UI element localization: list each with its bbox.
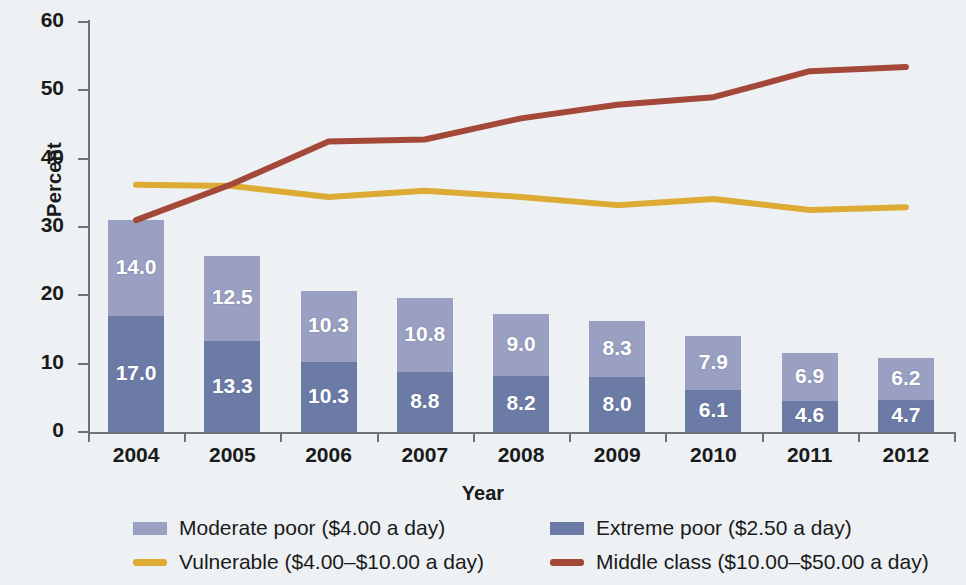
bar-value-label: 10.3 <box>301 313 357 337</box>
bar-segment-moderate-poor[interactable]: 12.5 <box>204 256 260 341</box>
bar-2004[interactable]: 17.014.0 <box>108 220 164 432</box>
x-tick <box>858 432 860 442</box>
legend-item-label: Vulnerable ($4.00–$10.00 a day) <box>179 550 484 574</box>
bar-value-label: 12.5 <box>204 285 260 309</box>
x-tick-label: 2005 <box>184 443 280 467</box>
x-tick-label: 2010 <box>665 443 761 467</box>
x-tick <box>377 432 379 442</box>
x-axis-title: Year <box>0 482 966 505</box>
bar-value-label: 4.7 <box>878 403 934 427</box>
bar-value-label: 8.2 <box>493 391 549 415</box>
bar-2008[interactable]: 8.29.0 <box>493 314 549 432</box>
bar-value-label: 8.3 <box>589 336 645 360</box>
legend-item[interactable]: Vulnerable ($4.00–$10.00 a day) <box>133 550 484 574</box>
bar-segment-extreme-poor[interactable]: 10.3 <box>301 362 357 432</box>
y-tick <box>78 226 88 228</box>
chart-container: Percent Year 0102030405060 2004200520062… <box>0 0 966 585</box>
y-tick-label: 10 <box>8 350 64 374</box>
y-tick-label: 20 <box>8 281 64 305</box>
bar-value-label: 14.0 <box>108 255 164 279</box>
bar-value-label: 17.0 <box>108 361 164 385</box>
y-tick <box>78 363 88 365</box>
bar-segment-moderate-poor[interactable]: 9.0 <box>493 314 549 376</box>
bar-segment-extreme-poor[interactable]: 8.2 <box>493 376 549 432</box>
bar-2006[interactable]: 10.310.3 <box>301 291 357 432</box>
bar-2011[interactable]: 4.66.9 <box>782 353 838 432</box>
x-tick <box>88 432 90 442</box>
x-tick <box>665 432 667 442</box>
bar-value-label: 6.2 <box>878 366 934 390</box>
x-tick <box>954 432 956 442</box>
x-tick-label: 2011 <box>762 443 858 467</box>
y-tick <box>78 89 88 91</box>
bar-value-label: 10.8 <box>397 322 453 346</box>
legend-swatch-line <box>550 559 584 566</box>
x-tick <box>280 432 282 442</box>
bar-segment-moderate-poor[interactable]: 8.3 <box>589 321 645 378</box>
plot-area: 17.014.013.312.510.310.38.810.88.29.08.0… <box>88 22 954 432</box>
x-tick-label: 2009 <box>569 443 665 467</box>
chart-legend: Moderate poor ($4.00 a day)Extreme poor … <box>0 512 966 585</box>
bar-value-label: 6.9 <box>782 364 838 388</box>
x-tick <box>569 432 571 442</box>
bar-segment-extreme-poor[interactable]: 4.6 <box>782 401 838 432</box>
bar-value-label: 10.3 <box>301 384 357 408</box>
bar-segment-extreme-poor[interactable]: 17.0 <box>108 316 164 432</box>
bar-segment-extreme-poor[interactable]: 8.8 <box>397 372 453 432</box>
legend-item[interactable]: Middle class ($10.00–$50.00 a day) <box>550 550 929 574</box>
x-tick-label: 2004 <box>88 443 184 467</box>
bar-segment-extreme-poor[interactable]: 13.3 <box>204 341 260 432</box>
y-tick-label: 0 <box>8 418 64 442</box>
y-tick <box>78 158 88 160</box>
y-tick <box>78 431 88 433</box>
bar-segment-extreme-poor[interactable]: 6.1 <box>685 390 741 432</box>
bar-segment-moderate-poor[interactable]: 10.8 <box>397 298 453 372</box>
legend-item[interactable]: Extreme poor ($2.50 a day) <box>550 516 852 540</box>
bar-segment-extreme-poor[interactable]: 4.7 <box>878 400 934 432</box>
y-tick-label: 60 <box>8 8 64 32</box>
x-tick-label: 2006 <box>281 443 377 467</box>
bar-2010[interactable]: 6.17.9 <box>685 336 741 432</box>
bar-segment-moderate-poor[interactable]: 6.9 <box>782 353 838 400</box>
bar-value-label: 6.1 <box>685 398 741 422</box>
legend-item[interactable]: Moderate poor ($4.00 a day) <box>133 516 445 540</box>
bar-segment-extreme-poor[interactable]: 8.0 <box>589 377 645 432</box>
legend-item-label: Middle class ($10.00–$50.00 a day) <box>596 550 929 574</box>
bar-value-label: 8.0 <box>589 392 645 416</box>
x-tick-label: 2012 <box>858 443 954 467</box>
bar-value-label: 7.9 <box>685 350 741 374</box>
x-tick <box>473 432 475 442</box>
legend-item-label: Extreme poor ($2.50 a day) <box>596 516 852 540</box>
x-axis-line <box>88 432 954 434</box>
bar-value-label: 8.8 <box>397 389 453 413</box>
x-tick-label: 2008 <box>473 443 569 467</box>
y-tick-label: 30 <box>8 213 64 237</box>
legend-swatch-box <box>550 522 584 535</box>
bar-segment-moderate-poor[interactable]: 10.3 <box>301 291 357 361</box>
bar-segment-moderate-poor[interactable]: 14.0 <box>108 220 164 316</box>
x-tick <box>762 432 764 442</box>
legend-swatch-box <box>133 522 167 535</box>
y-tick <box>78 21 88 23</box>
legend-item-label: Moderate poor ($4.00 a day) <box>179 516 445 540</box>
x-tick-label: 2007 <box>377 443 473 467</box>
bar-2007[interactable]: 8.810.8 <box>397 298 453 432</box>
legend-swatch-line <box>133 559 167 566</box>
y-tick-label: 40 <box>8 145 64 169</box>
bar-segment-moderate-poor[interactable]: 6.2 <box>878 358 934 400</box>
bar-segment-moderate-poor[interactable]: 7.9 <box>685 336 741 390</box>
x-tick <box>184 432 186 442</box>
bar-2005[interactable]: 13.312.5 <box>204 256 260 432</box>
bar-2009[interactable]: 8.08.3 <box>589 321 645 432</box>
bar-2012[interactable]: 4.76.2 <box>878 358 934 432</box>
y-tick-label: 50 <box>8 76 64 100</box>
bar-value-label: 4.6 <box>782 403 838 427</box>
bar-value-label: 13.3 <box>204 374 260 398</box>
y-tick <box>78 294 88 296</box>
bar-value-label: 9.0 <box>493 332 549 356</box>
